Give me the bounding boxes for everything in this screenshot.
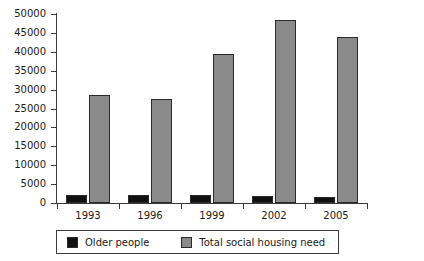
clipped-chart-title bbox=[0, 0, 424, 3]
y-axis-tick-label: 20000 bbox=[0, 122, 46, 132]
chart-legend: Older peopleTotal social housing need bbox=[56, 230, 339, 254]
x-axis-tick-label: 1993 bbox=[58, 210, 118, 221]
x-axis-tick bbox=[367, 204, 368, 209]
y-axis-tick-label: 50000 bbox=[0, 9, 46, 19]
y-axis-tick-label: 5000 bbox=[0, 179, 46, 189]
bar bbox=[314, 197, 335, 203]
y-axis-tick-label: 30000 bbox=[0, 85, 46, 95]
bar bbox=[275, 20, 296, 203]
x-axis-tick-label: 2002 bbox=[244, 210, 304, 221]
bar bbox=[213, 54, 234, 203]
plot-area bbox=[57, 14, 367, 203]
bar bbox=[190, 195, 211, 204]
x-axis-tick bbox=[305, 204, 306, 209]
bar-chart-figure: 0500010000150002000025000300003500040000… bbox=[0, 0, 424, 261]
bar bbox=[151, 99, 172, 203]
bar bbox=[128, 195, 149, 203]
y-axis-tick-label: 10000 bbox=[0, 160, 46, 170]
legend-label: Older people bbox=[85, 237, 149, 248]
bar bbox=[89, 95, 110, 203]
x-axis-tick-label: 1999 bbox=[182, 210, 242, 221]
y-axis-tick-label: 35000 bbox=[0, 66, 46, 76]
bar bbox=[337, 37, 358, 203]
x-axis-line bbox=[56, 203, 368, 204]
y-axis-tick-label: 45000 bbox=[0, 28, 46, 38]
y-axis-tick-label: 15000 bbox=[0, 141, 46, 151]
x-axis-tick-label: 2005 bbox=[306, 210, 366, 221]
legend-entry: Total social housing need bbox=[181, 231, 325, 253]
y-axis-tick-label: 40000 bbox=[0, 47, 46, 57]
y-axis-tick-label: 0 bbox=[0, 198, 46, 208]
x-axis-tick-label: 1996 bbox=[120, 210, 180, 221]
bar bbox=[252, 196, 273, 203]
bar bbox=[66, 195, 87, 203]
x-axis-tick bbox=[119, 204, 120, 209]
legend-entry: Older people bbox=[67, 231, 149, 253]
legend-swatch-icon bbox=[181, 237, 192, 248]
legend-label: Total social housing need bbox=[199, 237, 325, 248]
x-axis-tick bbox=[57, 204, 58, 209]
y-axis-tick-label: 25000 bbox=[0, 104, 46, 114]
legend-swatch-icon bbox=[67, 237, 78, 248]
x-axis-tick bbox=[243, 204, 244, 209]
x-axis-tick bbox=[181, 204, 182, 209]
